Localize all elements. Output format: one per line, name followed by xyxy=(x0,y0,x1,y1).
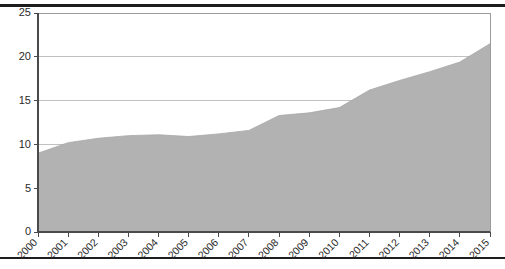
x-tick-label-2011: 2011 xyxy=(346,236,371,261)
area-chart-svg: 0510152025 20002001200220032004200520062… xyxy=(0,0,505,269)
y-axis-group xyxy=(34,13,38,232)
x-tick-label-2001: 2001 xyxy=(45,236,70,261)
x-tick-label-2008: 2008 xyxy=(255,236,280,261)
x-tick-label-2012: 2012 xyxy=(376,236,401,261)
x-tick-label-2014: 2014 xyxy=(436,236,461,261)
y-tick-label-15: 15 xyxy=(19,94,31,106)
y-tick-label-5: 5 xyxy=(25,182,31,194)
x-tick-label-2002: 2002 xyxy=(75,236,100,261)
x-tick-label-2003: 2003 xyxy=(105,236,130,261)
x-tick-label-2006: 2006 xyxy=(195,236,220,261)
y-tick-label-25: 25 xyxy=(19,6,31,18)
x-tick-label-2000: 2000 xyxy=(14,236,39,261)
x-tick-label-2007: 2007 xyxy=(225,236,250,261)
y-tick-label-10: 10 xyxy=(19,138,31,150)
x-axis-tick-labels: 2000200120022003200420052006200720082009… xyxy=(14,236,491,261)
x-tick-label-2010: 2010 xyxy=(316,236,341,261)
x-tick-label-2005: 2005 xyxy=(165,236,190,261)
y-tick-label-20: 20 xyxy=(19,50,31,62)
x-tick-label-2009: 2009 xyxy=(286,236,311,261)
x-tick-label-2013: 2013 xyxy=(406,236,431,261)
y-axis-tick-labels: 0510152025 xyxy=(19,6,31,237)
x-tick-label-2004: 2004 xyxy=(135,236,160,261)
chart-figure: 0510152025 20002001200220032004200520062… xyxy=(0,0,505,269)
x-tick-label-2015: 2015 xyxy=(466,236,491,261)
plot-area-series-group xyxy=(38,44,490,232)
